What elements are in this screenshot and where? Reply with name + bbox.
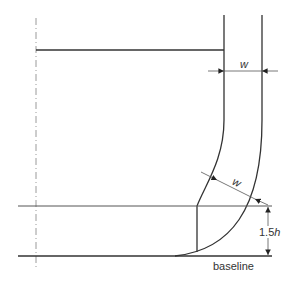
height-label: 1.5h [259,226,280,238]
width-dimension-curve: w [201,172,268,205]
outer-wall [175,15,262,256]
baseline-label: baseline [213,260,254,272]
flow-diagram: w w 1.5h baseline [0,0,295,285]
width-dimension-top: w [208,58,278,71]
width-label-top: w [240,58,249,70]
height-dimension: 1.5h [259,207,280,255]
